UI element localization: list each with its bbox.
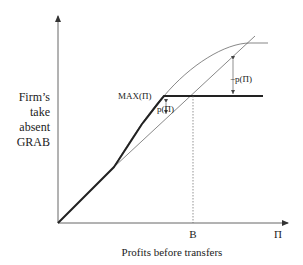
b-tick-label: B <box>189 228 196 240</box>
y-axis-label-line-3: absent <box>19 120 50 134</box>
x-axis-label: Profits before transfers <box>122 246 223 258</box>
neg-p-label: −p(Π) <box>230 74 252 84</box>
max-label: MAX(Π) <box>118 91 152 101</box>
diagonal-line <box>114 36 255 167</box>
firm-take-line <box>58 96 263 223</box>
y-axis-label-line-4: GRAB <box>17 135 50 149</box>
pi-axis-label: Π <box>274 228 282 240</box>
concave-curve <box>114 43 268 167</box>
diagram: Firm’s take absent GRAB MAX(Π) p(Π) −p(Π… <box>0 0 303 265</box>
y-axis-label-line-1: Firm’s <box>19 90 51 104</box>
y-axis-label-line-2: take <box>30 105 50 119</box>
p-label: p(Π) <box>157 104 174 114</box>
